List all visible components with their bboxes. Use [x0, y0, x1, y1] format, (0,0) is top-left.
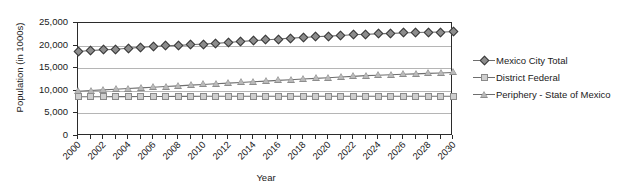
x-tick-mark — [127, 135, 128, 139]
x-tick-mark — [252, 135, 253, 139]
x-tick-mark — [440, 135, 441, 139]
x-tick-mark — [215, 135, 216, 139]
chart-container: Population (in 1000s) 25,00020,00015,000… — [0, 0, 636, 193]
x-axis-title: Year — [226, 172, 306, 183]
legend-item-mexico-city-total[interactable]: Mexico City Total — [472, 52, 611, 69]
y-tick-label: 5,000 — [8, 107, 68, 117]
x-tick-label: 2020 — [310, 139, 333, 162]
x-tick-label: 2006 — [135, 139, 158, 162]
x-tick-mark — [90, 135, 91, 139]
x-tick-label: 2022 — [335, 139, 358, 162]
x-tick-mark — [365, 135, 366, 139]
x-tick-mark — [315, 135, 316, 139]
legend-label: Mexico City Total — [496, 55, 568, 66]
triangle-marker-icon — [472, 89, 496, 101]
y-tick-label: 15,000 — [8, 62, 68, 72]
x-tick-mark — [327, 135, 328, 139]
x-tick-mark — [177, 135, 178, 139]
y-tick-label: 10,000 — [8, 85, 68, 95]
x-tick-label: 2010 — [185, 139, 208, 162]
x-tick-label: 2014 — [235, 139, 258, 162]
x-tick-mark — [302, 135, 303, 139]
x-tick-mark — [115, 135, 116, 139]
x-tick-mark — [390, 135, 391, 139]
y-tick-label: 20,000 — [8, 40, 68, 50]
diamond-marker-icon — [472, 55, 496, 67]
x-tick-mark — [240, 135, 241, 139]
x-tick-label: 2004 — [110, 139, 133, 162]
x-tick-mark — [190, 135, 191, 139]
legend-item-district-federal[interactable]: District Federal — [472, 69, 611, 86]
x-tick-mark — [265, 135, 266, 139]
y-axis-labels: 25,00020,00015,00010,0005,0000 — [0, 0, 72, 193]
x-tick-label: 2002 — [85, 139, 108, 162]
x-tick-mark — [140, 135, 141, 139]
x-tick-mark — [377, 135, 378, 139]
x-tick-label: 2030 — [435, 139, 458, 162]
chart-legend: Mexico City Total District Federal Perip… — [472, 52, 611, 103]
legend-item-periphery-state-of-mexico[interactable]: Periphery - State of Mexico — [472, 86, 611, 103]
x-tick-mark — [415, 135, 416, 139]
x-tick-mark — [102, 135, 103, 139]
x-tick-mark — [290, 135, 291, 139]
x-tick-mark — [277, 135, 278, 139]
x-tick-mark — [202, 135, 203, 139]
x-tick-label: 2008 — [160, 139, 183, 162]
square-marker-icon — [472, 72, 496, 84]
x-tick-label: 2016 — [260, 139, 283, 162]
x-tick-mark — [152, 135, 153, 139]
x-tick-mark — [352, 135, 353, 139]
x-tick-label: 2024 — [360, 139, 383, 162]
x-tick-mark — [452, 135, 453, 139]
y-tick-label: 25,000 — [8, 17, 68, 27]
x-tick-label: 2028 — [410, 139, 433, 162]
plot-area — [77, 22, 452, 135]
legend-label: District Federal — [496, 72, 560, 83]
x-tick-label: 2012 — [210, 139, 233, 162]
legend-label: Periphery - State of Mexico — [496, 89, 611, 100]
x-tick-label: 2026 — [385, 139, 408, 162]
x-tick-mark — [165, 135, 166, 139]
x-tick-mark — [427, 135, 428, 139]
y-tick-label: 0 — [8, 130, 68, 140]
x-tick-label: 2018 — [285, 139, 308, 162]
x-tick-mark — [77, 135, 78, 139]
x-tick-mark — [402, 135, 403, 139]
x-tick-mark — [227, 135, 228, 139]
x-tick-mark — [340, 135, 341, 139]
